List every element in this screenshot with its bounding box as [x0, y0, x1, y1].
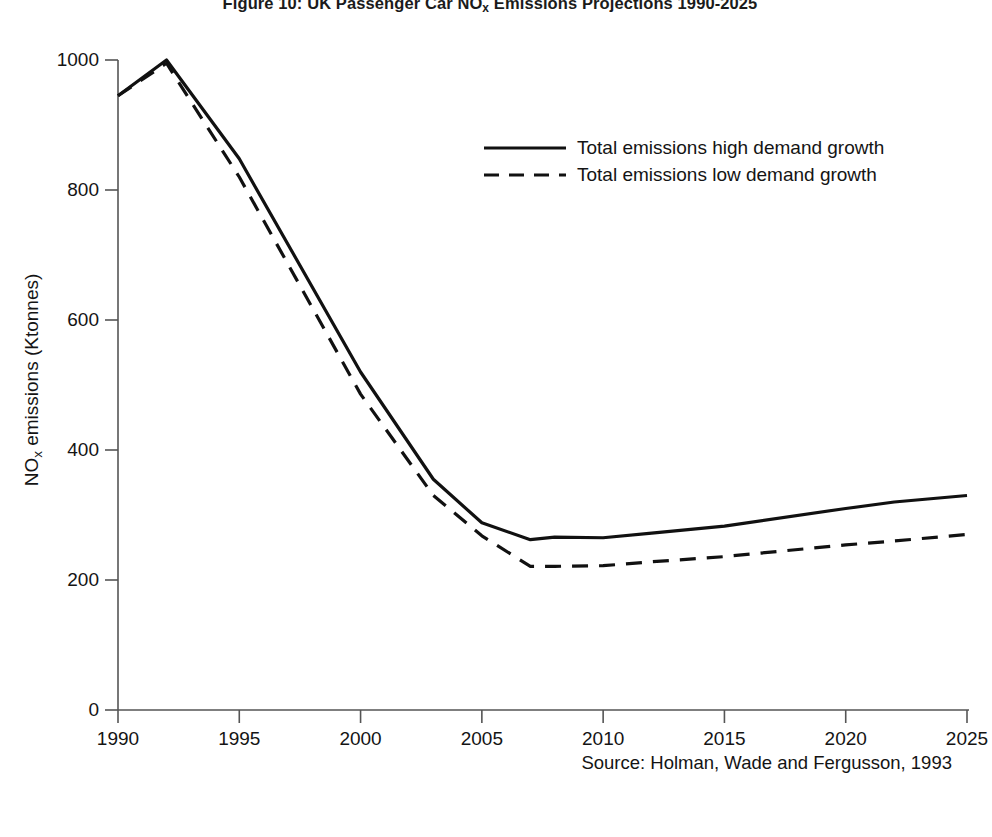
x-tick-label: 2005	[442, 727, 522, 751]
x-tick-label: 1990	[78, 727, 158, 751]
y-tick-label: 0	[19, 699, 99, 721]
x-tick-label: 2020	[806, 727, 886, 751]
y-axis-ticks	[105, 60, 118, 710]
y-tick-label: 200	[19, 569, 99, 591]
chart-legend: Total emissions high demand growthTotal …	[484, 134, 914, 188]
legend-label: Total emissions low demand growth	[577, 164, 877, 186]
y-tick-label: 800	[19, 179, 99, 201]
y-axis-title: NOx emissions (Ktonnes)	[21, 200, 43, 560]
source-note: Source: Holman, Wade and Fergusson, 1993	[0, 752, 952, 774]
y-axis-title-suffix: emissions (Ktonnes)	[21, 274, 42, 451]
solid-line-icon	[484, 141, 566, 155]
x-tick-label: 2000	[321, 727, 401, 751]
x-tick-label: 2025	[927, 727, 992, 751]
x-axis-ticks	[118, 710, 967, 723]
series-line-1	[118, 60, 967, 540]
y-tick-label: 1000	[19, 49, 99, 71]
legend-item-2[interactable]: Total emissions low demand growth	[484, 161, 914, 188]
legend-item-1[interactable]: Total emissions high demand growth	[484, 134, 914, 161]
x-tick-label: 2010	[563, 727, 643, 751]
y-axis-title-prefix: NO	[21, 458, 42, 487]
dashed-line-icon	[484, 168, 566, 182]
y-axis-title-subscript: x	[30, 451, 45, 458]
x-tick-label: 1995	[199, 727, 279, 751]
x-tick-label: 2015	[684, 727, 764, 751]
legend-label: Total emissions high demand growth	[577, 137, 884, 159]
